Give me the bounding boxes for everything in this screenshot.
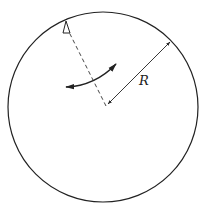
diagram-canvas: R: [0, 0, 205, 212]
dashed-line: [68, 30, 106, 106]
radius-label: R: [138, 73, 149, 88]
rim-marker-icon: [63, 21, 70, 33]
main-circle: [8, 12, 198, 202]
oscillation-arrow: [66, 64, 116, 87]
